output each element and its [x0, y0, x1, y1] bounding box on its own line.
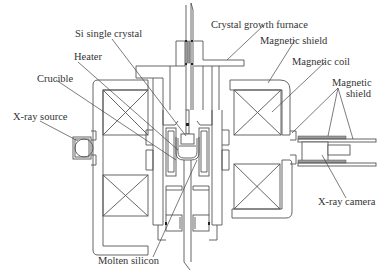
inner-chamber	[146, 110, 229, 225]
right-magnetic-shield	[230, 80, 292, 218]
xray-camera	[298, 136, 376, 166]
left-upper-coil	[103, 90, 148, 135]
label-heater: Heater	[74, 51, 102, 62]
label-crucible: Crucible	[37, 73, 73, 84]
label-crystal-growth-furnace: Crystal growth furnace	[211, 19, 308, 30]
lower-support	[158, 186, 217, 240]
label-magnetic-shield-top: Magnetic shield	[260, 35, 327, 46]
label-xray-camera: X-ray camera	[318, 196, 375, 207]
label-magnetic-coil: Magnetic coil	[292, 56, 350, 67]
label-molten-silicon: Molten silicon	[98, 255, 159, 266]
left-magnetic-shield	[93, 80, 148, 255]
right-lower-coil	[234, 164, 280, 209]
label-magnetic-shield-right-1: Magnetic	[332, 77, 372, 88]
right-upper-coil	[234, 90, 281, 135]
label-xray-source: X-ray source	[13, 111, 68, 122]
furnace-schematic	[0, 0, 388, 275]
label-si-single-crystal: Si single crystal	[75, 28, 142, 39]
left-lower-coil	[103, 175, 148, 216]
label-magnetic-shield-right-2: shield	[346, 88, 371, 99]
pull-rod	[185, 3, 193, 110]
